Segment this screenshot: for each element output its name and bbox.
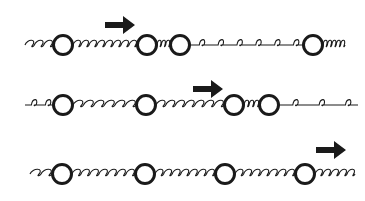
arrow-right-icon	[105, 16, 135, 34]
arrow-right-icon	[193, 80, 223, 98]
spring	[235, 169, 295, 175]
mass	[54, 96, 73, 115]
mass	[225, 96, 244, 115]
mass	[296, 165, 315, 184]
spring	[315, 169, 355, 175]
mass	[138, 36, 157, 55]
spring	[72, 169, 135, 175]
mass	[53, 165, 72, 184]
spring	[323, 40, 345, 46]
spring	[155, 169, 215, 175]
spring	[30, 169, 52, 175]
spring	[190, 40, 303, 46]
spring	[279, 100, 358, 106]
diagram-canvas	[0, 0, 365, 201]
mass	[137, 96, 156, 115]
spring	[244, 100, 259, 106]
mass	[54, 36, 73, 55]
mass	[136, 165, 155, 184]
spring	[73, 100, 136, 106]
spring	[156, 100, 224, 106]
spring	[157, 40, 170, 46]
row-1	[25, 16, 345, 55]
arrow-right-icon	[316, 141, 346, 159]
mass	[171, 36, 190, 55]
row-2	[25, 80, 358, 115]
mass	[260, 96, 279, 115]
spring	[73, 40, 137, 46]
mass	[216, 165, 235, 184]
mass	[304, 36, 323, 55]
spring	[25, 100, 53, 106]
spring-mass-diagram	[0, 0, 365, 201]
spring	[25, 40, 53, 46]
row-3	[30, 141, 355, 184]
